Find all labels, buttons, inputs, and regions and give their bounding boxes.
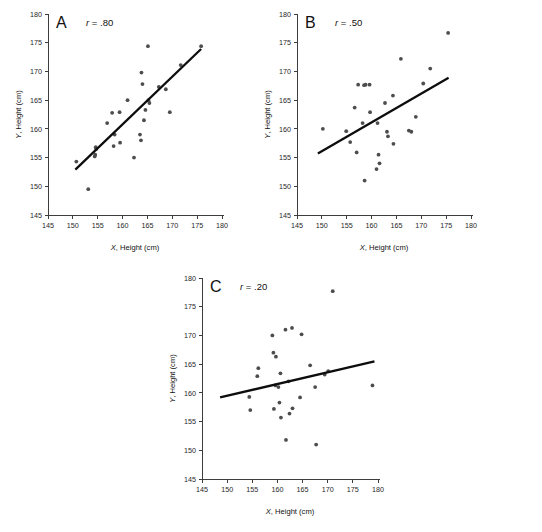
data-point [140, 71, 144, 75]
x-tick-label: 180 [372, 485, 384, 494]
data-point [271, 334, 275, 338]
y-tick-label: 160 [30, 125, 42, 134]
y-tick-label: 175 [279, 38, 291, 47]
x-tick-label: 160 [366, 221, 378, 230]
scatter-points-b [321, 31, 450, 182]
data-point [146, 44, 150, 48]
data-point [118, 110, 122, 114]
x-tick-label: 180 [216, 221, 228, 230]
data-point [248, 408, 252, 412]
x-tick-label: 150 [221, 485, 233, 494]
data-point [399, 57, 403, 61]
x-tick-label: 165 [390, 221, 402, 230]
data-point [368, 83, 372, 87]
y-tick-label: 165 [30, 96, 42, 105]
y-tick-label: 145 [184, 475, 196, 484]
data-point [138, 133, 142, 137]
figure-root: 1451501551601651701751801451501551601651… [0, 0, 542, 532]
x-tick-label: 175 [191, 221, 203, 230]
x-tick-label: 155 [92, 221, 104, 230]
data-point [356, 83, 360, 87]
data-point [409, 130, 413, 134]
x-tick-label: 165 [297, 485, 309, 494]
data-point [371, 383, 375, 387]
x-tick-label: 170 [166, 221, 178, 230]
x-tick-label: 170 [415, 221, 427, 230]
x-axis-title: X, Height (cm) [265, 507, 315, 516]
x-tick-label: 155 [246, 485, 258, 494]
y-tick-label: 150 [184, 446, 196, 455]
data-point [383, 101, 387, 105]
x-tick-label: 145 [291, 221, 303, 230]
y-axis-title: Y, Height (cm) [263, 90, 272, 139]
y-tick-label: 170 [279, 67, 291, 76]
data-point [279, 416, 283, 420]
y-axis-title: Y, Height (cm) [168, 354, 177, 403]
y-tick-label: 160 [184, 389, 196, 398]
data-point [298, 396, 302, 400]
x-tick-label: 160 [117, 221, 129, 230]
data-point [288, 412, 292, 416]
y-tick-label: 180 [30, 10, 42, 19]
data-point [168, 110, 172, 114]
data-point [378, 161, 382, 165]
data-point [313, 385, 317, 389]
data-point [272, 407, 276, 411]
x-tick-label: 155 [341, 221, 353, 230]
data-point [105, 121, 109, 125]
data-point [164, 87, 168, 91]
y-tick-label: 155 [184, 417, 196, 426]
x-tick-label: 175 [440, 221, 452, 230]
chart-c: 1451501551601651701751801451501551601651… [152, 264, 432, 532]
data-point [361, 121, 365, 125]
data-point [375, 167, 379, 171]
x-tick-label: 150 [316, 221, 328, 230]
data-point [331, 289, 335, 293]
y-tick-label: 175 [30, 38, 42, 47]
x-tick-label: 145 [196, 485, 208, 494]
data-point [291, 406, 295, 410]
data-point [364, 83, 368, 87]
data-point [421, 82, 425, 86]
data-point [141, 82, 145, 86]
data-point [110, 111, 114, 115]
y-tick-label: 145 [30, 211, 42, 220]
y-tick-label: 170 [184, 331, 196, 340]
data-point [112, 144, 116, 148]
x-tick-label: 160 [271, 485, 283, 494]
data-point [279, 371, 283, 375]
data-point [392, 142, 396, 146]
panel-letter-a: A [56, 14, 67, 31]
data-point [385, 130, 389, 134]
data-point [348, 140, 352, 144]
panel-a-scatter: 1451501551601651701751801451501551601651… [0, 0, 272, 262]
y-tick-label: 155 [30, 153, 42, 162]
data-point [277, 385, 281, 389]
data-point [414, 115, 418, 119]
scatter-points-c [247, 289, 374, 446]
correlation-annotation-c: r = .20 [240, 281, 267, 292]
y-tick-label: 175 [184, 302, 196, 311]
correlation-annotation-b: r = .50 [335, 17, 362, 28]
y-tick-label: 170 [30, 67, 42, 76]
y-axis-title: Y, Height (cm) [14, 90, 23, 139]
data-point [300, 332, 304, 336]
data-point [284, 438, 288, 442]
data-point [74, 160, 78, 164]
data-point [363, 179, 367, 183]
y-tick-label: 180 [184, 274, 196, 283]
data-point [284, 328, 288, 332]
data-point [199, 44, 203, 48]
data-point [308, 363, 312, 367]
correlation-annotation-a: r = .80 [86, 17, 113, 28]
x-tick-label: 170 [322, 485, 334, 494]
data-point [314, 443, 318, 447]
data-point [132, 156, 136, 160]
data-point [391, 94, 395, 98]
data-point [118, 141, 122, 145]
data-point [139, 138, 143, 142]
x-axis-title: X, Height (cm) [359, 243, 409, 252]
panel-letter-c: C [210, 278, 222, 295]
x-axis-title: X, Height (cm) [110, 243, 160, 252]
x-tick-label: 180 [465, 221, 477, 230]
